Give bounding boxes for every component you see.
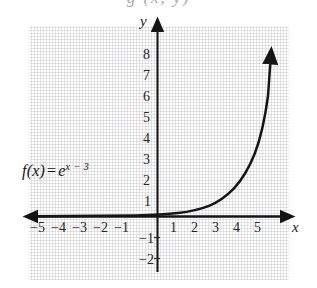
equation-base: e <box>58 162 65 179</box>
graph-canvas <box>0 0 317 288</box>
y-tick-label-5: 5 <box>143 111 150 125</box>
x-tick-label-3: 3 <box>212 221 219 235</box>
x-tick-label-neg-3: −3 <box>72 221 87 235</box>
x-tick-label-neg-5: −5 <box>30 221 45 235</box>
function-equation-label: f(x)=ex − 3 <box>22 161 89 180</box>
y-axis-label: y <box>140 13 147 30</box>
y-tick-label-8: 8 <box>143 48 150 62</box>
y-tick-label-neg-1: −1 <box>139 232 154 246</box>
x-tick-label-neg-1: −1 <box>114 221 129 235</box>
x-tick-label-1: 1 <box>170 221 177 235</box>
y-tick-label-6: 6 <box>143 90 150 104</box>
y-tick-label-2: 2 <box>143 174 150 188</box>
x-tick-label-4: 4 <box>233 221 240 235</box>
exponential-curve <box>36 62 270 216</box>
x-tick-label-neg-2: −2 <box>93 221 108 235</box>
x-axis-label: x <box>292 219 299 236</box>
equation-function-name: f(x) <box>22 162 45 179</box>
y-tick-label-7: 7 <box>143 69 150 83</box>
y-tick-label-1: 1 <box>144 195 151 209</box>
y-tick-label-4: 4 <box>143 132 150 146</box>
y-tick-label-3: 3 <box>143 153 150 167</box>
exponential-function-figure: g (x, y) 8 7 6 5 4 3 2 1 <box>0 0 317 288</box>
x-tick-label-5: 5 <box>254 221 261 235</box>
x-tick-label-neg-4: −4 <box>51 221 66 235</box>
equation-equals-sign: = <box>45 162 58 179</box>
equation-exponent: x − 3 <box>66 161 90 172</box>
y-tick-label-neg-2: −2 <box>139 253 154 267</box>
x-tick-label-2: 2 <box>191 221 198 235</box>
